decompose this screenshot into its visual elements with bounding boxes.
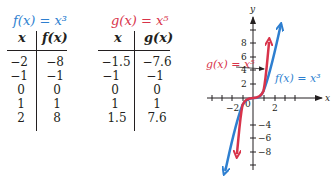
x-axis [207,95,322,101]
y-tick-label: 8 [241,38,247,48]
x-tick-label: −2 [226,103,239,113]
y-axis-label: y [249,4,256,14]
curve-f-label: f(x) = x³ [274,72,321,85]
x-tick-label: 2 [272,103,278,113]
y-tick-label: 2 [241,79,247,89]
curve-g-label: g(x) = x⁵ [206,58,255,71]
function-graph: x −2 0 2 y 8 6 4 2 −4 −6 −8 g(x) = x⁵ f(… [0,0,331,178]
x-axis-label: x [325,93,330,103]
y-tick-label: −8 [258,147,272,157]
y-tick-label: −4 [258,120,272,130]
y-tick-label: −6 [258,133,272,143]
y-axis [250,17,256,170]
